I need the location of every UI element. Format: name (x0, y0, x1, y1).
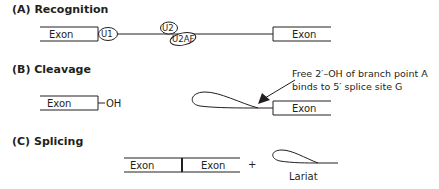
exon-label: Exon (49, 29, 73, 40)
lariat-product (273, 150, 338, 163)
exon-label: Exon (292, 103, 316, 114)
panel-cleavage: (B) Cleavage Exon OH Exon Free 2′–OH of … (12, 63, 428, 115)
panel-title-splicing: (C) Splicing (12, 135, 83, 148)
exon-left-cleavage: Exon OH (40, 96, 121, 110)
u2-snrnp: U2 (161, 22, 178, 34)
splicing-diagram: (A) Recognition Exon U1 U2 U2AF (0, 0, 439, 189)
exon-label: Exon (201, 160, 225, 171)
annotation-line-2: binds to 5′ splice site G (292, 81, 402, 92)
arrow-icon (258, 80, 295, 104)
panel-title-recognition: (A) Recognition (12, 3, 108, 16)
lariat-label: Lariat (289, 171, 318, 182)
panel-recognition: (A) Recognition Exon U1 U2 U2AF (12, 3, 331, 48)
panel-splicing: (C) Splicing Exon Exon + Lariat (12, 135, 338, 182)
u2-label: U2 (162, 23, 174, 33)
exon-label: Exon (47, 98, 71, 109)
u1-label: U1 (101, 29, 113, 39)
panel-title-cleavage: (B) Cleavage (12, 63, 91, 76)
plus-sign: + (248, 159, 256, 170)
u2af-label: U2AF (172, 34, 194, 44)
exon-label: Exon (292, 29, 316, 40)
exon-right-recognition: Exon (273, 27, 331, 41)
hydroxyl-label: OH (106, 98, 121, 109)
exon-right-cleavage: Exon (273, 101, 331, 115)
exon-left-recognition: Exon (40, 27, 98, 41)
annotation-line-1: Free 2′–OH of branch point A (292, 68, 428, 79)
spliced-exons: Exon Exon (124, 158, 240, 172)
exon-label: Exon (130, 160, 154, 171)
u1-snrnp: U1 (99, 28, 118, 41)
